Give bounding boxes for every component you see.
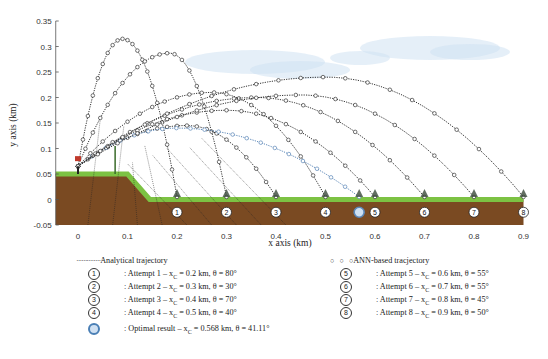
svg-text:7: 7: [472, 209, 476, 216]
svg-text:0: 0: [76, 232, 81, 241]
legend-ann-label: ANN-based tracjectory: [353, 256, 429, 265]
svg-text:5: 5: [373, 209, 377, 216]
y-axis-label: y axis (km): [8, 103, 19, 146]
trajectory-plot: 12345678 -0.0500.050.10.150.20.250.30.35…: [0, 0, 548, 250]
svg-text:0.6: 0.6: [369, 232, 381, 241]
dotted-line-icon: ··············: [76, 256, 100, 265]
svg-text:0: 0: [47, 196, 52, 205]
svg-text:0.2: 0.2: [171, 232, 183, 241]
numbered-circle-icon: [88, 323, 100, 335]
numbered-circle-icon: 8: [340, 307, 352, 319]
legend-item-label: : Attempt 6 – xC = 0.7 km, θ = 55°: [376, 282, 489, 291]
svg-text:0.3: 0.3: [41, 43, 53, 52]
svg-text:3: 3: [274, 209, 278, 216]
svg-text:0.15: 0.15: [36, 119, 52, 128]
svg-text:4: 4: [324, 209, 328, 216]
svg-text:0.5: 0.5: [320, 232, 332, 241]
legend-item-label: : Optimal result – xC = 0.568 km, θ = 41…: [124, 324, 269, 333]
cloud-decoration: [185, 36, 510, 79]
svg-text:2: 2: [225, 209, 229, 216]
svg-text:0.3: 0.3: [221, 232, 233, 241]
legend-item: 4: Attempt 4 – xC = 0.5 km, θ = 40°: [88, 307, 237, 322]
svg-text:0.8: 0.8: [468, 232, 480, 241]
numbered-circle-icon: 7: [340, 294, 352, 306]
legend-ann: ○ ○ ○ANN-based tracjectory: [330, 255, 429, 267]
svg-text:1: 1: [175, 209, 179, 216]
numbered-circle-icon: 3: [88, 294, 100, 306]
svg-text:0.2: 0.2: [41, 94, 53, 103]
svg-text:0.1: 0.1: [122, 232, 134, 241]
legend-item-label: : Attempt 8 – xC = 0.9 km, θ = 50°: [376, 308, 489, 317]
legend-item-label: : Attempt 4 – xC = 0.5 km, θ = 40°: [124, 308, 237, 317]
legend-item-label: : Attempt 5 – xC = 0.6 km, θ = 55°: [376, 269, 489, 278]
legend-item: 8: Attempt 8 – xC = 0.9 km, θ = 50°: [340, 307, 489, 322]
circle-markers-icon: ○ ○ ○: [330, 257, 353, 265]
legend-item-label: : Attempt 3 – xC = 0.4 km, θ = 70°: [124, 295, 237, 304]
numbered-circle-icon: 2: [88, 281, 100, 293]
svg-text:0.25: 0.25: [36, 68, 52, 77]
numbered-circle-icon: 5: [340, 268, 352, 280]
svg-text:0.35: 0.35: [36, 17, 52, 26]
legend-analytical: ··············Analytical trajectory: [76, 255, 168, 266]
svg-text:6: 6: [423, 209, 427, 216]
svg-text:0.1: 0.1: [41, 145, 53, 154]
legend-item-label: : Attempt 1 – xC = 0.2 km, θ = 80°: [124, 269, 237, 278]
x-axis-label: x axis (km): [268, 238, 311, 249]
svg-text:8: 8: [522, 209, 526, 216]
svg-text:-0.05: -0.05: [33, 221, 52, 230]
legend-analytical-label: Analytical trajectory: [100, 256, 168, 265]
legend-item: : Optimal result – xC = 0.568 km, θ = 41…: [88, 323, 269, 338]
svg-text:0.05: 0.05: [36, 170, 52, 179]
terrain: [56, 174, 524, 225]
svg-text:0.9: 0.9: [518, 232, 530, 241]
legend-item-label: : Attempt 7 – xC = 0.8 km, θ = 45°: [376, 295, 489, 304]
legend-item-label: : Attempt 2 – xC = 0.3 km, θ = 30°: [124, 282, 237, 291]
numbered-circle-icon: 4: [88, 307, 100, 319]
numbered-circle-icon: 1: [88, 268, 100, 280]
numbered-circle-icon: 6: [340, 281, 352, 293]
svg-text:0.7: 0.7: [419, 232, 431, 241]
